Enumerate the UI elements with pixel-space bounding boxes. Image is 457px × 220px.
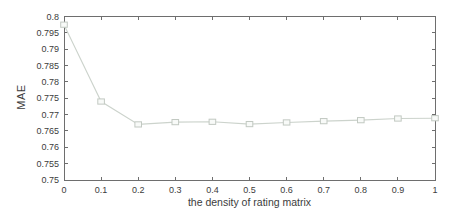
svg-text:0.6: 0.6 xyxy=(280,185,293,195)
svg-text:0.3: 0.3 xyxy=(169,185,182,195)
svg-text:0.7: 0.7 xyxy=(317,185,330,195)
mae-series-line xyxy=(64,25,435,125)
svg-text:0.79: 0.79 xyxy=(41,44,59,54)
svg-text:0.76: 0.76 xyxy=(41,142,59,152)
svg-text:0.8: 0.8 xyxy=(355,185,368,195)
y-tick-labels: 0.750.7550.760.7650.770.7750.780.7850.79… xyxy=(36,12,59,186)
data-point-marker xyxy=(358,118,365,123)
x-axis-title: the density of rating matrix xyxy=(64,196,435,210)
data-point-marker xyxy=(320,119,327,124)
axis-ticks xyxy=(64,17,435,181)
data-point-marker xyxy=(98,99,105,104)
data-point-marker xyxy=(172,120,179,125)
svg-text:0.755: 0.755 xyxy=(36,159,59,169)
svg-text:0.795: 0.795 xyxy=(36,28,59,38)
svg-text:1: 1 xyxy=(432,185,437,195)
svg-text:0.8: 0.8 xyxy=(46,12,59,22)
svg-text:0.1: 0.1 xyxy=(95,185,108,195)
axes-box xyxy=(64,17,435,181)
svg-text:0.775: 0.775 xyxy=(36,93,59,103)
figure: 00.10.20.30.40.50.60.70.80.910.750.7550.… xyxy=(0,0,457,220)
data-point-marker xyxy=(395,116,402,121)
data-point-marker xyxy=(432,116,439,121)
svg-text:0.785: 0.785 xyxy=(36,61,59,71)
svg-text:0.2: 0.2 xyxy=(132,185,145,195)
svg-text:0.75: 0.75 xyxy=(41,175,59,185)
svg-text:0.9: 0.9 xyxy=(392,185,405,195)
x-tick-labels: 00.10.20.30.40.50.60.70.80.91 xyxy=(61,185,437,195)
y-axis-title: MAE xyxy=(15,67,29,127)
data-point-marker xyxy=(61,22,68,27)
svg-text:0.5: 0.5 xyxy=(243,185,256,195)
svg-text:0.77: 0.77 xyxy=(41,110,59,120)
data-point-marker xyxy=(246,121,253,126)
data-point-marker xyxy=(283,120,290,125)
svg-text:0: 0 xyxy=(61,185,66,195)
svg-text:0.4: 0.4 xyxy=(206,185,219,195)
svg-text:0.78: 0.78 xyxy=(41,77,59,87)
chart-plot-area: 00.10.20.30.40.50.60.70.80.910.750.7550.… xyxy=(0,0,457,220)
data-point-marker xyxy=(209,119,216,124)
svg-text:0.765: 0.765 xyxy=(36,126,59,136)
data-point-marker xyxy=(135,122,142,127)
